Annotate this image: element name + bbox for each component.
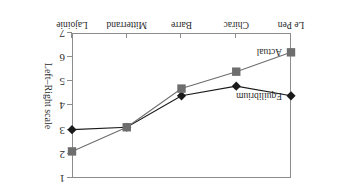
series-annotation-equilibrium: Equilibrium — [236, 91, 282, 101]
data-point-diamond — [67, 125, 76, 134]
data-point-square — [177, 84, 185, 92]
data-point-square — [68, 147, 76, 155]
series-line-actual — [72, 52, 291, 151]
series-annotation-actual: Actual — [257, 47, 282, 57]
data-point-square — [287, 48, 295, 56]
line-chart-figure: 1234567 LajoinieMitterrandBarreChiracLe … — [0, 0, 350, 192]
data-point-square — [232, 67, 240, 75]
rotated-figure-wrapper: 1234567 LajoinieMitterrandBarreChiracLe … — [0, 0, 350, 192]
data-point-diamond — [232, 82, 241, 91]
data-point-square — [123, 123, 131, 131]
data-point-diamond — [286, 91, 295, 100]
y-axis-title: Left–Right scale — [43, 63, 53, 129]
